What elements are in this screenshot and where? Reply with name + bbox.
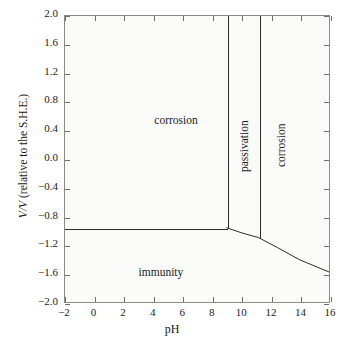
y-axis-tick-right xyxy=(324,74,329,75)
pourbaix-diagram-figure: corrosionpassivationcorrosionimmunity pH… xyxy=(0,0,344,346)
immunity-upper-sloped xyxy=(226,228,329,272)
y-axis-tick-right xyxy=(324,102,329,103)
region-label-corrosion-left: corrosion xyxy=(154,114,197,126)
y-axis-tick-right xyxy=(324,275,329,276)
y-axis-tick-right xyxy=(324,45,329,46)
x-axis-tick-label: 16 xyxy=(315,306,344,318)
y-axis-tick-right xyxy=(324,131,329,132)
x-axis-tick-top xyxy=(331,16,332,21)
x-axis-tick xyxy=(95,297,96,302)
x-axis-tick xyxy=(183,297,184,302)
y-axis-tick-label: 0.4 xyxy=(14,122,58,134)
corrosion-immunity-horizontal xyxy=(65,229,228,230)
y-axis-tick-right xyxy=(324,304,329,305)
y-axis-tick xyxy=(65,160,70,161)
x-axis-tick xyxy=(154,297,155,302)
x-axis-tick xyxy=(272,297,273,302)
corrosion-passivation-vertical xyxy=(228,16,229,229)
y-axis-tick xyxy=(65,275,70,276)
plot-area: corrosionpassivationcorrosionimmunity xyxy=(64,15,330,303)
y-axis-tick xyxy=(65,189,70,190)
x-axis-tick-top xyxy=(154,16,155,21)
x-axis-tick xyxy=(213,297,214,302)
x-axis-tick-top xyxy=(213,16,214,21)
y-axis-tick-label: 2.0 xyxy=(14,7,58,19)
x-axis-tick-label: 2 xyxy=(108,306,138,318)
y-axis-tick-right xyxy=(324,16,329,17)
x-axis-tick-top xyxy=(95,16,96,21)
x-axis-tick-label: 4 xyxy=(138,306,168,318)
x-axis-tick xyxy=(124,297,125,302)
boundary-lines-svg xyxy=(65,16,329,302)
y-axis-tick-right xyxy=(324,218,329,219)
x-axis-tick-label: 0 xyxy=(79,306,109,318)
x-axis-tick xyxy=(242,297,243,302)
y-axis-tick-label: −0.8 xyxy=(14,209,58,221)
y-axis-tick-right xyxy=(324,246,329,247)
y-axis-tick xyxy=(65,102,70,103)
x-axis-tick xyxy=(65,297,66,302)
x-axis-tick-top xyxy=(301,16,302,21)
y-axis-tick xyxy=(65,16,70,17)
x-axis-tick-label: 14 xyxy=(285,306,315,318)
y-axis-tick-right xyxy=(324,160,329,161)
y-axis-tick-label: −2.0 xyxy=(14,295,58,307)
x-axis-tick xyxy=(331,297,332,302)
x-axis-tick-top xyxy=(183,16,184,21)
x-axis-tick-label: 10 xyxy=(226,306,256,318)
y-axis-tick-label: 1.2 xyxy=(14,65,58,77)
x-axis-label: pH xyxy=(0,322,344,337)
x-axis-tick-label: −2 xyxy=(49,306,79,318)
y-axis-tick-label: −1.6 xyxy=(14,266,58,278)
x-axis-tick-top xyxy=(242,16,243,21)
y-axis-tick xyxy=(65,45,70,46)
region-label-passivation: passivation xyxy=(238,120,250,172)
y-axis-tick-label: 0.0 xyxy=(14,151,58,163)
x-axis-tick-label: 8 xyxy=(197,306,227,318)
x-axis-tick-top xyxy=(272,16,273,21)
region-label-immunity: immunity xyxy=(139,266,184,278)
y-axis-tick-label: −1.2 xyxy=(14,237,58,249)
y-axis-tick-right xyxy=(324,189,329,190)
x-axis-tick-label: 12 xyxy=(256,306,286,318)
y-axis-tick xyxy=(65,246,70,247)
y-axis-tick xyxy=(65,218,70,219)
x-axis-tick-top xyxy=(124,16,125,21)
y-axis-tick-label: −0.4 xyxy=(14,180,58,192)
region-label-corrosion-right: corrosion xyxy=(275,124,287,167)
y-axis-tick-label: 0.8 xyxy=(14,93,58,105)
y-axis-tick-label: 1.6 xyxy=(14,36,58,48)
y-axis-tick xyxy=(65,74,70,75)
y-axis-tick xyxy=(65,131,70,132)
y-axis-tick xyxy=(65,304,70,305)
x-axis-tick-label: 6 xyxy=(167,306,197,318)
x-axis-tick xyxy=(301,297,302,302)
passivation-corrosion-vertical xyxy=(260,16,261,239)
